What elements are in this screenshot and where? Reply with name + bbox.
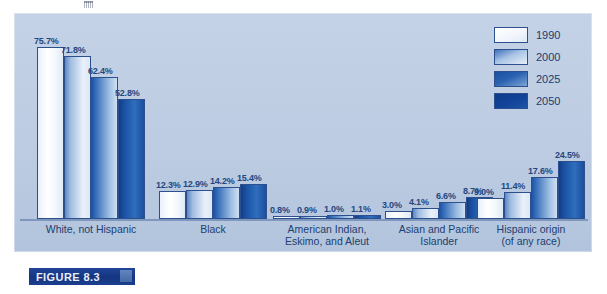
bar-wrap: 12.3% xyxy=(159,191,186,219)
bar-value-label: 15.4% xyxy=(237,173,262,183)
category-label-line: Asian and Pacific xyxy=(399,223,480,235)
bar-wrap: 4.1% xyxy=(412,208,439,219)
figure-caption-label: FIGURE 8.3 xyxy=(36,271,100,283)
bar-wrap: 24.5% xyxy=(558,161,585,219)
bar-2000[interactable] xyxy=(300,216,327,219)
bar-wrap: 15.4% xyxy=(240,184,267,219)
bar-wrap: 6.6% xyxy=(439,202,466,219)
bars: 0.8% 0.9% 1.0% 1.1% xyxy=(273,215,381,219)
category-label-white-not-hispanic: White, not Hispanic xyxy=(46,223,136,235)
axis-baseline xyxy=(20,219,588,221)
bar-wrap: 11.4% xyxy=(504,192,531,219)
bar-2025[interactable] xyxy=(91,77,118,219)
bar-value-label: 6.6% xyxy=(436,191,456,201)
bar-value-label: 9.0% xyxy=(474,187,494,197)
bar-value-label: 0.9% xyxy=(297,205,317,215)
bar-value-label: 14.2% xyxy=(210,176,235,186)
legend-label: 1990 xyxy=(536,29,560,41)
bar-2050[interactable] xyxy=(354,215,381,219)
bars: 12.3% 12.9% 14.2% 15.4% xyxy=(159,184,267,219)
bar-value-label: 24.5% xyxy=(555,150,580,160)
category-label-line: Eskimo, and Aleut xyxy=(285,235,369,247)
bar-value-label: 71.8% xyxy=(61,45,86,55)
bar-value-label: 1.0% xyxy=(324,204,344,214)
bar-wrap: 75.7% xyxy=(37,47,64,219)
bars: 75.7% 71.8% 62.4% 52.8% xyxy=(37,47,145,219)
bar-2025[interactable] xyxy=(327,215,354,219)
chart-panel: 75.7% 71.8% 62.4% 52.8% White, not Hispa… xyxy=(14,13,592,252)
category-label-line: White, not Hispanic xyxy=(46,223,136,235)
legend-label: 2050 xyxy=(536,95,560,107)
bar-2000[interactable] xyxy=(504,192,531,219)
bar-value-label: 11.4% xyxy=(501,181,525,191)
bar-2000[interactable] xyxy=(412,208,439,219)
category-label-asian-pacific-islander: Asian and Pacific Islander xyxy=(399,223,480,247)
bar-2025[interactable] xyxy=(439,202,466,219)
bar-2050[interactable] xyxy=(240,184,267,219)
bar-wrap: 0.9% xyxy=(300,216,327,219)
legend-swatch-icon-1990 xyxy=(494,27,528,43)
bar-2025[interactable] xyxy=(213,187,240,219)
bar-group-american-indian: 0.8% 0.9% 1.0% 1.1% American Indian, xyxy=(273,37,381,219)
legend-swatch-icon-2000 xyxy=(494,49,528,65)
legend-item-2050[interactable]: 2050 xyxy=(494,91,578,111)
category-label-black: Black xyxy=(200,223,226,235)
category-label-line: Black xyxy=(200,223,226,235)
bar-2025[interactable] xyxy=(531,177,558,219)
legend-label: 2025 xyxy=(536,73,560,85)
bar-wrap: 17.6% xyxy=(531,177,558,219)
chart-legend: 1990 2000 2025 2050 xyxy=(494,25,578,113)
bar-group-black: 12.3% 12.9% 14.2% 15.4% Black xyxy=(159,37,267,219)
bar-wrap: 1.0% xyxy=(327,215,354,219)
category-label-hispanic-origin: Hispanic origin (of any race) xyxy=(497,223,566,247)
bar-1990[interactable] xyxy=(385,211,412,219)
bar-value-label: 17.6% xyxy=(528,166,553,176)
category-label-line: (of any race) xyxy=(497,235,566,247)
scan-artifact xyxy=(84,1,93,8)
legend-item-1990[interactable]: 1990 xyxy=(494,25,578,45)
legend-swatch-icon-2025 xyxy=(494,71,528,87)
bar-2000[interactable] xyxy=(64,56,91,219)
bar-wrap: 9.0% xyxy=(477,198,504,219)
bar-value-label: 52.8% xyxy=(115,88,140,98)
bar-wrap: 62.4% xyxy=(91,77,118,219)
bar-value-label: 12.9% xyxy=(183,179,208,189)
bar-2050[interactable] xyxy=(558,161,585,219)
plot-area: 75.7% 71.8% 62.4% 52.8% White, not Hispa… xyxy=(14,13,592,252)
category-label-line: American Indian, xyxy=(285,223,369,235)
bar-wrap: 1.1% xyxy=(354,215,381,219)
legend-label: 2000 xyxy=(536,51,560,63)
bar-wrap: 71.8% xyxy=(64,56,91,219)
bar-value-label: 4.1% xyxy=(409,197,429,207)
bar-wrap: 3.0% xyxy=(385,211,412,219)
category-label-line: Hispanic origin xyxy=(497,223,566,235)
category-label-line: Islander xyxy=(399,235,480,247)
bar-1990[interactable] xyxy=(477,198,504,219)
bar-1990[interactable] xyxy=(159,191,186,219)
legend-swatch-icon-2050 xyxy=(494,93,528,109)
bar-value-label: 1.1% xyxy=(351,204,371,214)
bar-value-label: 0.8% xyxy=(270,205,290,215)
bar-group-white-not-hispanic: 75.7% 71.8% 62.4% 52.8% White, not Hispa… xyxy=(37,37,145,219)
bar-value-label: 75.7% xyxy=(34,36,59,46)
bar-value-label: 3.0% xyxy=(382,200,402,210)
bar-value-label: 12.3% xyxy=(156,180,181,190)
bar-value-label: 62.4% xyxy=(88,66,113,76)
bar-2050[interactable] xyxy=(118,99,145,219)
figure-caption-trailer xyxy=(120,270,132,282)
bar-wrap: 12.9% xyxy=(186,190,213,219)
bar-wrap: 0.8% xyxy=(273,216,300,219)
category-label-american-indian: American Indian, Eskimo, and Aleut xyxy=(285,223,369,247)
bar-1990[interactable] xyxy=(37,47,64,219)
bar-wrap: 52.8% xyxy=(118,99,145,219)
bar-2000[interactable] xyxy=(186,190,213,219)
bar-1990[interactable] xyxy=(273,216,300,219)
bar-wrap: 14.2% xyxy=(213,187,240,219)
legend-item-2000[interactable]: 2000 xyxy=(494,47,578,67)
legend-item-2025[interactable]: 2025 xyxy=(494,69,578,89)
bars: 9.0% 11.4% 17.6% 24.5% xyxy=(477,161,585,219)
